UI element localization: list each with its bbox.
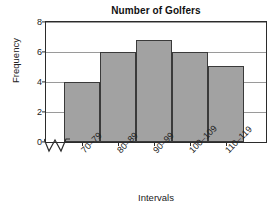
plot-area: 02468 70–7980–8990–99100–109110–119 bbox=[45, 21, 267, 143]
y-axis-label: Frequency bbox=[10, 16, 21, 106]
bar bbox=[100, 52, 136, 142]
y-axis-tick-mark bbox=[42, 111, 46, 112]
y-axis-tick-mark bbox=[42, 81, 46, 82]
histogram-chart: Number of Golfers Frequency Intervals 02… bbox=[0, 0, 277, 214]
bar bbox=[136, 40, 172, 142]
chart-title: Number of Golfers bbox=[45, 5, 267, 16]
bar-series bbox=[46, 22, 266, 142]
y-axis-tick-mark bbox=[42, 51, 46, 52]
axis-break-zigzag-icon bbox=[44, 138, 70, 154]
bar bbox=[172, 52, 208, 142]
x-axis-label: Intervals bbox=[45, 192, 267, 203]
y-axis-tick-mark bbox=[42, 21, 46, 22]
